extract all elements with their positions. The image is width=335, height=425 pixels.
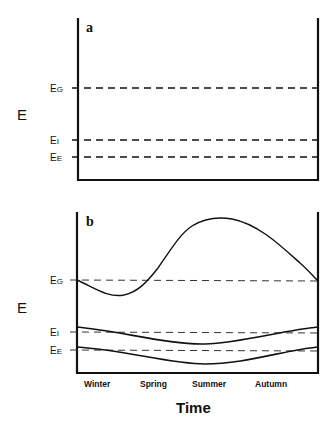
diagram: a E EG EI EE b E EG EI EE Winter Spring … xyxy=(0,0,335,425)
panel-a-label: a xyxy=(86,20,93,35)
ee-label-a: EE xyxy=(50,152,62,163)
ei-label-a: EI xyxy=(50,135,59,146)
panel-b-label: b xyxy=(86,214,94,229)
y-axis-label-b: E xyxy=(17,299,27,316)
season-summer: Summer xyxy=(192,379,227,389)
season-autumn: Autumn xyxy=(255,379,287,389)
panel-a-axes xyxy=(78,18,318,180)
panel-a: a E EG EI EE xyxy=(17,18,318,180)
ee-label-b: EE xyxy=(50,345,62,356)
g-curve xyxy=(77,218,318,295)
season-winter: Winter xyxy=(84,379,111,389)
panel-b-axes xyxy=(77,212,318,373)
season-spring: Spring xyxy=(140,379,167,389)
panel-b: b E EG EI EE Winter Spring Summer Autumn… xyxy=(17,212,318,416)
eg-label-a: EG xyxy=(50,83,63,94)
level-eg-b xyxy=(70,280,318,281)
ei-label-b: EI xyxy=(50,327,59,338)
eg-label-b: EG xyxy=(50,275,63,286)
x-axis-label: Time xyxy=(176,399,211,416)
y-axis-label-a: E xyxy=(17,106,27,123)
i-curve xyxy=(77,327,318,344)
e-curve xyxy=(77,347,318,364)
